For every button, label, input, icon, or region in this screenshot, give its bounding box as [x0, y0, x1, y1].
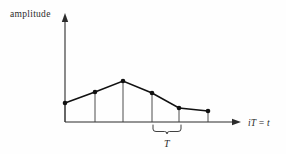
sample-point [206, 109, 211, 114]
arrow-up-icon [62, 13, 68, 22]
x-axis-label: iT = t [248, 118, 270, 128]
figure-container: amplitude iT = t T [0, 0, 286, 154]
sample-point [63, 101, 68, 106]
sample-point [177, 106, 182, 111]
signal-envelope-line [65, 81, 208, 111]
sample-point [93, 90, 98, 95]
signal-sampling-diagram: amplitude iT = t T [0, 0, 286, 154]
x-axis-group [65, 119, 241, 125]
sample-point [150, 91, 155, 96]
underbrace-icon [153, 125, 181, 134]
period-label: T [164, 138, 171, 149]
arrow-right-icon [232, 119, 241, 125]
sample-point [121, 79, 126, 84]
y-axis-label: amplitude [10, 9, 51, 19]
